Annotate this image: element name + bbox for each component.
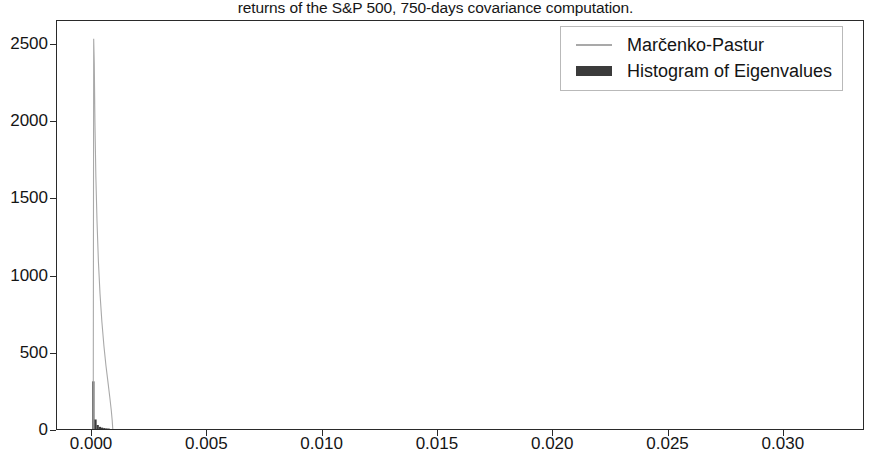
- legend-bar-swatch-icon: [571, 66, 617, 76]
- histogram-bar: [94, 419, 96, 429]
- x-tick-label: 0.015: [392, 434, 482, 454]
- histogram-bars: [92, 381, 109, 429]
- histogram-bar: [103, 428, 105, 429]
- x-tick-label: 0.010: [277, 434, 367, 454]
- marcenko-pastur-line: [93, 39, 113, 429]
- histogram-bar: [99, 427, 101, 429]
- legend-label-histogram: Histogram of Eigenvalues: [627, 61, 832, 81]
- legend-label-marcenko-pastur: Marčenko-Pastur: [627, 35, 764, 55]
- x-tick-mark: [783, 430, 784, 436]
- x-tick-mark: [437, 430, 438, 436]
- chart-figure: returns of the S&P 500, 750-days covaria…: [0, 0, 871, 454]
- histogram-bar: [97, 425, 99, 429]
- legend-item-marcenko-pastur: Marčenko-Pastur: [571, 32, 832, 58]
- x-tick-label: 0.025: [623, 434, 713, 454]
- x-tick-label: 0.005: [161, 434, 251, 454]
- x-tick-mark: [668, 430, 669, 436]
- legend-line-swatch-icon: [571, 44, 617, 46]
- x-tick-label: 0.020: [507, 434, 597, 454]
- legend-item-histogram: Histogram of Eigenvalues: [571, 58, 832, 84]
- x-tick-mark: [552, 430, 553, 436]
- histogram-bar: [101, 428, 103, 429]
- legend: Marčenko-Pastur Histogram of Eigenvalues: [560, 26, 843, 91]
- x-tick-label: 0.000: [46, 434, 136, 454]
- x-tick-mark: [322, 430, 323, 436]
- x-tick-mark: [206, 430, 207, 436]
- histogram-bar: [105, 428, 107, 429]
- x-tick-label: 0.030: [738, 434, 828, 454]
- x-tick-mark: [91, 430, 92, 436]
